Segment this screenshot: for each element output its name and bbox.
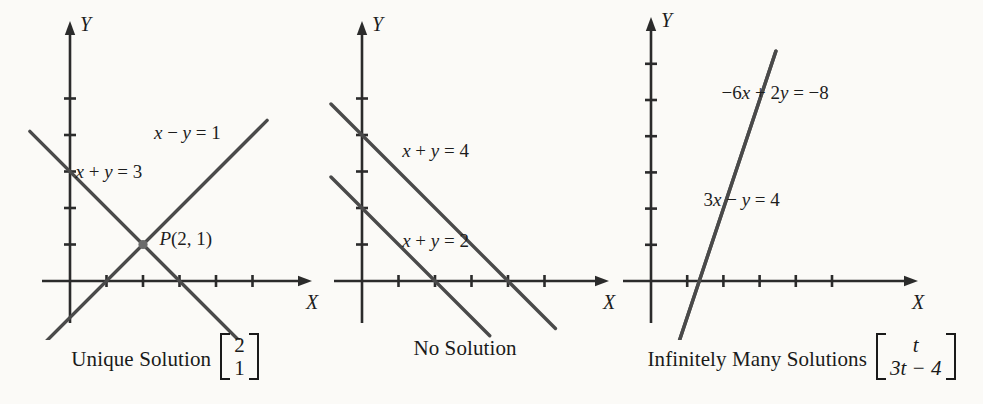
panel-unique-solution-graph: XYx − y = 1x + y = 3P(2, 1)	[0, 0, 330, 340]
y-axis-label: Y	[661, 9, 674, 31]
graph-line-1	[30, 120, 267, 340]
equation-label-1: x + y = 4	[401, 140, 469, 161]
bracket-right-icon	[249, 333, 259, 380]
y-axis-arrow-icon	[357, 21, 367, 35]
bracket-right-icon	[946, 333, 956, 380]
solution-vector-2: t 3t − 4	[876, 333, 956, 380]
equation-label-1: x − y = 1	[153, 122, 221, 143]
caption-unique-solution: Unique Solution 2 1	[0, 336, 330, 383]
y-axis-arrow-icon	[65, 21, 75, 35]
x-axis-label: X	[911, 291, 925, 313]
y-axis-label: Y	[372, 13, 385, 35]
caption-no-solution: No Solution	[300, 336, 630, 361]
x-axis-arrow-icon	[904, 276, 918, 286]
vector-entry-1: t	[913, 334, 919, 357]
intersection-point-label: P(2, 1)	[158, 228, 212, 250]
linear-systems-figure: XYx − y = 1x + y = 3P(2, 1) Unique Solut…	[0, 0, 983, 404]
bracket-left-icon	[220, 333, 230, 380]
graph-line-1	[331, 104, 555, 328]
vector-entry-1: 2	[234, 334, 245, 357]
solution-vector-0: 2 1	[220, 333, 259, 380]
caption-label-0: Unique Solution	[71, 347, 211, 372]
panel-infinitely-many-solutions-graph: XY−6x + 2y = −83x − y = 4	[620, 0, 983, 340]
intersection-point-dot	[138, 240, 147, 249]
x-axis-arrow-icon	[595, 276, 609, 286]
equation-label-2: x + y = 2	[401, 230, 469, 251]
equation-label-2: 3x − y = 4	[703, 189, 780, 210]
vector-entry-2: 1	[234, 357, 245, 380]
equation-label-1: −6x + 2y = −8	[722, 82, 829, 103]
graph-line-2	[331, 177, 490, 336]
caption-infinitely-many-solutions: Infinitely Many Solutions t 3t − 4	[620, 336, 983, 383]
panel-no-solution-graph: XYx + y = 4x + y = 2	[300, 0, 630, 340]
vector-entry-2: 3t − 4	[890, 357, 942, 380]
equation-label-2: x + y = 3	[74, 161, 142, 182]
graph-line-2	[30, 131, 267, 340]
caption-label-1: No Solution	[413, 336, 516, 361]
bracket-left-icon	[876, 333, 886, 380]
caption-label-2: Infinitely Many Solutions	[647, 347, 867, 372]
y-axis-arrow-icon	[646, 17, 656, 31]
y-axis-label: Y	[80, 13, 93, 35]
x-axis-label: X	[602, 291, 616, 313]
